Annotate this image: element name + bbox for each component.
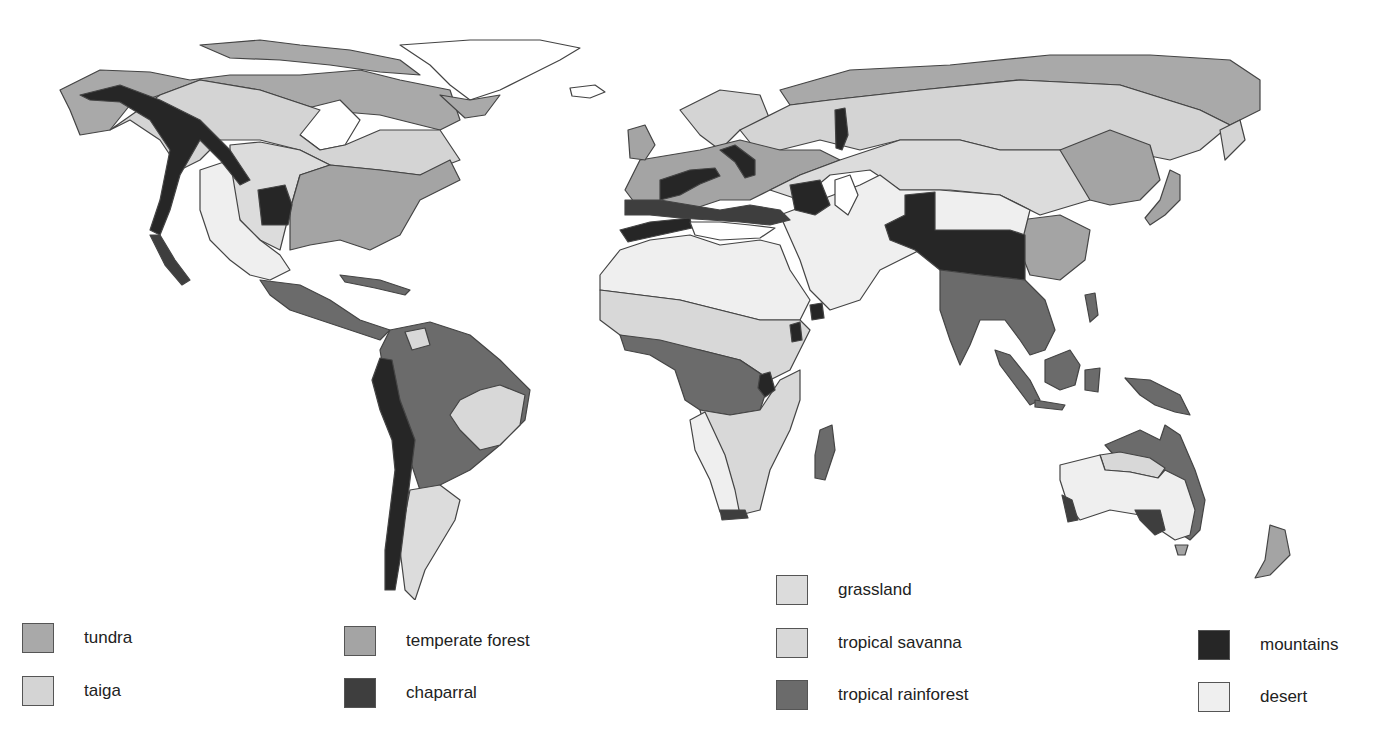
sumatra [995, 350, 1040, 405]
tundra-swatch [22, 623, 54, 653]
legend-item-desert: desert [1198, 682, 1307, 712]
legend-label: tropical savanna [838, 633, 962, 653]
china-temperate-forest [1020, 215, 1090, 280]
legend-label: mountains [1260, 635, 1338, 655]
borneo [1045, 350, 1080, 390]
legend-label: tropical rainforest [838, 685, 968, 705]
grassland-swatch [776, 575, 808, 605]
legend-item-tropical-rainforest: tropical rainforest [776, 680, 968, 710]
legend-item-taiga: taiga [22, 676, 121, 706]
legend-item-grassland: grassland [776, 575, 912, 605]
legend-item-mountains: mountains [1198, 630, 1338, 660]
na-temperate-forest [290, 160, 460, 250]
legend-label: tundra [84, 628, 132, 648]
madagascar [815, 425, 835, 480]
mountains-swatch [1198, 630, 1230, 660]
philippines [1085, 293, 1098, 322]
legend-item-temperate-forest: temperate forest [344, 626, 530, 656]
arctic-islands [200, 40, 420, 75]
legend-item-tropical-savanna: tropical savanna [776, 628, 962, 658]
legend-label: taiga [84, 681, 121, 701]
legend-item-chaparral: chaparral [344, 678, 477, 708]
legend-label: grassland [838, 580, 912, 600]
taiga-swatch [22, 676, 54, 706]
tropical-rainforest-swatch [776, 680, 808, 710]
caribbean-islands [340, 275, 410, 295]
na-chaparral [150, 235, 190, 285]
uk-temperate-forest [628, 125, 655, 160]
na-mountains-colorado [258, 185, 292, 225]
yemen-mountains [810, 303, 824, 320]
legend-label: desert [1260, 687, 1307, 707]
south-africa-chaparral [720, 510, 748, 520]
legend-label: chaparral [406, 683, 477, 703]
ethiopia-mountains [790, 322, 802, 342]
java [1035, 400, 1065, 410]
tropical-savanna-swatch [776, 628, 808, 658]
tasmania [1175, 545, 1188, 555]
sa-grassland [400, 485, 460, 600]
temperate-forest-swatch [344, 626, 376, 656]
new-zealand [1255, 525, 1290, 578]
sulawesi [1085, 368, 1100, 392]
central-america-rainforest [260, 280, 390, 340]
chaparral-swatch [344, 678, 376, 708]
iceland [570, 85, 605, 98]
desert-swatch [1198, 682, 1230, 712]
world-biome-map [0, 0, 1396, 600]
new-guinea [1125, 378, 1190, 415]
australia-chaparral-south [1135, 510, 1165, 535]
legend-label: temperate forest [406, 631, 530, 651]
legend-item-tundra: tundra [22, 623, 132, 653]
